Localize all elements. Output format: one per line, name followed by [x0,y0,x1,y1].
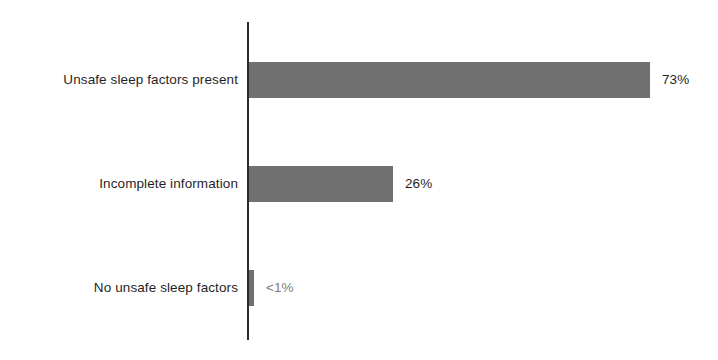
value-label-no-unsafe-sleep-factors: <1% [266,270,294,306]
bar-row: Incomplete information 26% [0,166,718,202]
bar-incomplete-information [249,166,393,202]
bar-no-unsafe-sleep-factors [249,270,254,306]
bar-row: Unsafe sleep factors present 73% [0,62,718,98]
bar-track: <1% [249,270,718,306]
category-label-no-unsafe-sleep-factors: No unsafe sleep factors [0,270,238,306]
bar-track: 26% [249,166,718,202]
category-label-unsafe-sleep-factors-present: Unsafe sleep factors present [0,62,238,98]
category-label-incomplete-information: Incomplete information [0,166,238,202]
bar-track: 73% [249,62,718,98]
bar-unsafe-sleep-factors-present [249,62,650,98]
bar-chart: Unsafe sleep factors present 73% Incompl… [0,0,718,360]
value-label-unsafe-sleep-factors-present: 73% [662,62,689,98]
value-label-incomplete-information: 26% [405,166,432,202]
bar-row: No unsafe sleep factors <1% [0,270,718,306]
